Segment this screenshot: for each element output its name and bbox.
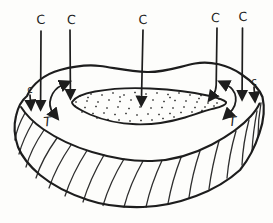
label-compression-small-right: c [251,76,257,87]
compression-arrow-small-left [30,95,31,102]
inner-stippled-region-outline [72,88,226,124]
tension-arc-right [227,85,236,113]
label-tension-left: T [43,114,54,130]
compression-arrow-small-right [254,87,255,94]
label-compression-2: C [66,12,76,27]
label-compression-3: C [138,12,148,27]
label-compression-small-left: c [27,84,33,95]
hand-drawn-dome-diagram: C C C C C c c T T [0,0,273,223]
label-compression-1: C [36,12,46,28]
side-wall-top-edge [21,104,260,162]
label-tension-right: T [228,114,238,130]
diagram-canvas: C C C C C c c T T [0,0,273,223]
compression-arrow-4 [213,28,217,95]
tension-arc-left [50,85,62,113]
label-compression-4: C [210,10,220,26]
side-wall-hatching [15,103,261,207]
label-compression-5: C [238,9,248,24]
